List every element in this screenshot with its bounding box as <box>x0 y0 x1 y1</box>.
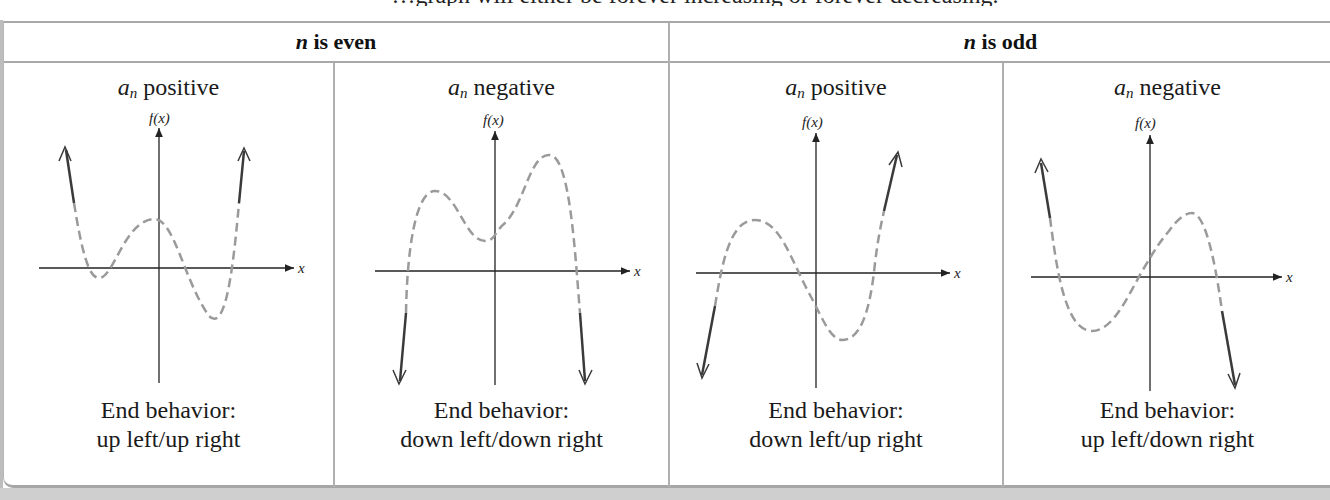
header-n-even: n is even <box>4 23 668 61</box>
dashed-curve <box>1050 213 1222 331</box>
caption-heading: End behavior: <box>335 396 668 425</box>
coefficient: a <box>1114 74 1126 100</box>
end-behavior-caption: End behavior: down left/up right <box>670 396 1002 454</box>
caption-value: down left/up right <box>670 425 1002 454</box>
cell-even-negative: an negative f(x) x End behavior: down le… <box>335 63 668 487</box>
y-axis-label: f(x) <box>483 113 504 129</box>
dashed-curve <box>406 155 580 313</box>
end-behavior-caption: End behavior: down left/down right <box>335 396 668 454</box>
graph-odd-negative: f(x) x <box>1004 113 1330 393</box>
header-label: is odd <box>976 29 1037 54</box>
cell-title: an negative <box>1004 73 1330 107</box>
coefficient-subscript: n <box>797 85 805 101</box>
caption-heading: End behavior: <box>1004 396 1330 425</box>
graph-odd-positive: f(x) x <box>670 113 1002 393</box>
x-axis-label: x <box>953 265 961 281</box>
caption-value: down left/down right <box>335 425 668 454</box>
x-axis-label: x <box>297 260 305 276</box>
table-header-row: n is even n is odd <box>4 23 1330 63</box>
end-behavior-caption: End behavior: up left/down right <box>1004 396 1330 454</box>
y-axis-label: f(x) <box>1135 115 1156 132</box>
caption-value: up left/up right <box>4 425 333 454</box>
page-margin <box>0 488 1330 500</box>
caption-heading: End behavior: <box>4 396 333 425</box>
graph-even-positive: f(x) x <box>4 113 333 393</box>
header-label: is even <box>308 29 376 54</box>
header-variable: n <box>964 29 976 54</box>
cell-odd-negative: an negative f(x) x End behavior: up left… <box>1004 63 1330 487</box>
header-variable: n <box>296 29 308 54</box>
graph-even-negative: f(x) x <box>335 113 668 393</box>
coefficient-subscript: n <box>1126 85 1134 101</box>
cell-title: an negative <box>335 73 668 107</box>
cell-even-positive: an positive f(x) x End behavior: up left… <box>4 63 333 487</box>
cell-odd-positive: an positive f(x) x End behavior: down le… <box>670 63 1002 487</box>
right-end-arrow-icon <box>580 313 585 381</box>
dashed-curve <box>74 203 239 319</box>
coefficient: a <box>118 74 130 100</box>
header-n-odd: n is odd <box>670 23 1330 61</box>
end-behavior-table: n is even n is odd an positive f(x) x <box>3 21 1330 488</box>
y-axis-label: f(x) <box>149 113 170 127</box>
left-end-arrow-icon <box>1041 163 1050 218</box>
coefficient-subscript: n <box>460 85 468 101</box>
sign-label: negative <box>1134 74 1221 100</box>
sign-label: positive <box>805 74 887 100</box>
y-axis-label: f(x) <box>802 114 823 131</box>
caption-value: up left/down right <box>1004 425 1330 454</box>
cell-title: an positive <box>4 73 333 107</box>
cropped-paragraph-text: …graph will either be forever increasing… <box>0 0 1330 6</box>
dashed-curve <box>715 211 884 340</box>
sign-label: positive <box>137 74 219 100</box>
x-axis-label: x <box>1285 269 1293 285</box>
coefficient: a <box>785 74 797 100</box>
x-axis-label: x <box>633 263 641 279</box>
caption-heading: End behavior: <box>670 396 1002 425</box>
sign-label: negative <box>468 74 555 100</box>
coefficient: a <box>448 74 460 100</box>
end-behavior-caption: End behavior: up left/up right <box>4 396 333 454</box>
cell-title: an positive <box>670 73 1002 107</box>
